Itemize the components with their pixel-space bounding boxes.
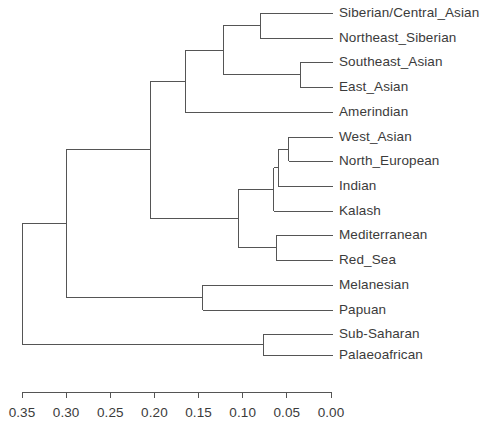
axis-tick-label-3: 0.20 [141,406,168,420]
leaf-label-kalash: Kalash [339,204,381,218]
leaf-label-papuan: Papuan [339,303,386,317]
axis-tick-label-6: 0.05 [274,406,301,420]
axis-tick-label-0: 0.35 [9,406,36,420]
dendrogram-figure: Siberian/Central_AsianNortheast_Siberian… [0,0,496,428]
leaf-label-southeast-asian: Southeast_Asian [339,55,443,69]
axis-tick-label-1: 0.30 [53,406,80,420]
leaf-label-mediterranean: Mediterranean [339,228,427,242]
leaf-label-northeast-siberian: Northeast_Siberian [339,31,456,45]
leaf-label-east-asian: East_Asian [339,80,408,94]
axis-tick-label-5: 0.10 [229,406,256,420]
leaf-label-amerindian: Amerindian [339,105,408,119]
leaf-label-melanesian: Melanesian [339,278,409,292]
axis-tick-label-2: 0.25 [97,406,124,420]
leaf-label-siberian-central-asian: Siberian/Central_Asian [339,6,479,20]
leaf-label-palaeoafrican: Palaeoafrican [339,348,423,362]
leaf-label-north-european: North_European [339,154,439,168]
axis-tick-label-4: 0.15 [185,406,212,420]
leaf-label-west-asian: West_Asian [339,130,412,144]
axis-tick-label-7: 0.00 [318,406,345,420]
leaf-label-red-sea: Red_Sea [339,253,396,267]
leaf-label-indian: Indian [339,179,376,193]
leaf-label-sub-saharan: Sub-Saharan [339,327,420,341]
